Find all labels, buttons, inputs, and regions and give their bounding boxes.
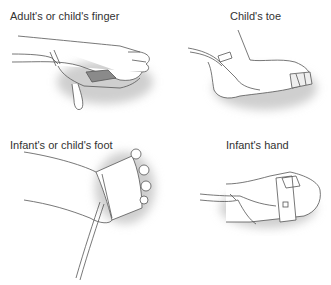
caption-hand: Infant's hand [226, 139, 289, 151]
caption-toe: Child's toe [230, 10, 281, 22]
figure: Adult's or child's finger Child's toe In… [0, 0, 331, 285]
foot-sensor-illustration [24, 149, 155, 280]
caption-finger: Adult's or child's finger [10, 10, 119, 22]
hand-sensor-illustration [200, 172, 320, 228]
finger-sensor-illustration [12, 36, 153, 110]
caption-foot: Infant's or child's foot [10, 139, 113, 151]
toe-sensor-illustration [188, 30, 317, 110]
